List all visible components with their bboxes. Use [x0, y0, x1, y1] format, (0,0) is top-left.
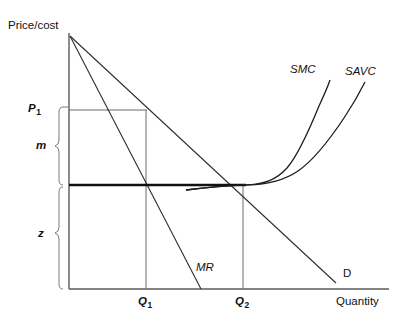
- price-p1-letter: P: [28, 102, 36, 114]
- brackets-group: [55, 107, 68, 289]
- quantity-q2-subscript: 2: [244, 300, 249, 310]
- smc-label: SMC: [290, 64, 316, 76]
- quantity-q1-letter: Q: [138, 295, 147, 307]
- cost-label: z: [38, 228, 44, 240]
- cost-bracket: [55, 187, 63, 289]
- quantity-q2-letter: Q: [235, 295, 244, 307]
- guide-lines-group: [69, 110, 243, 289]
- price-p1-label: P1: [28, 103, 40, 115]
- demand-label: D: [343, 268, 351, 280]
- smc-curve: [186, 80, 330, 190]
- axes-group: [69, 33, 389, 289]
- quantity-axis-label: Quantity: [336, 296, 379, 308]
- margin-bracket: [55, 107, 63, 185]
- price-p1-subscript: 1: [36, 107, 41, 117]
- economics-diagram: Price/cost Quantity P1 m z Q1 Q2 MR D SM…: [0, 0, 399, 321]
- quantity-q2-label: Q2: [235, 296, 249, 308]
- quantity-q1-label: Q1: [138, 296, 152, 308]
- margin-label: m: [36, 140, 46, 152]
- savc-curve: [186, 82, 365, 190]
- marginal-revenue-label: MR: [196, 262, 214, 274]
- savc-label: SAVC: [345, 66, 376, 78]
- marginal-revenue-curve: [70, 36, 201, 289]
- quantity-q1-subscript: 1: [147, 300, 152, 310]
- price-axis-label: Price/cost: [8, 20, 59, 32]
